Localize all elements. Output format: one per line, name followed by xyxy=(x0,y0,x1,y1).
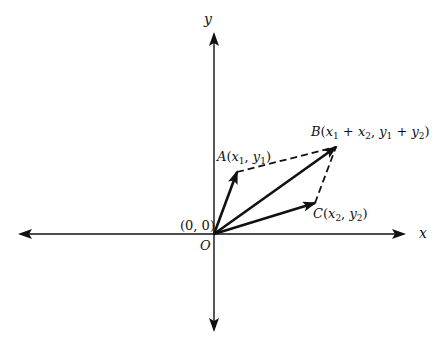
origin-coordinate-label: (0, 0) xyxy=(180,219,215,232)
diagram-canvas xyxy=(0,0,442,343)
origin-label: O xyxy=(200,239,211,252)
x-axis-label: x xyxy=(419,226,427,240)
point-B-label: B(x1 + x2, y1 + y2) xyxy=(311,125,430,141)
vector-addition-diagram: y x (0, 0) O A(x1, y1) B(x1 + x2, y1 + y… xyxy=(0,0,442,343)
point-C-label: C(x2, y2) xyxy=(313,207,368,223)
y-axis-label: y xyxy=(204,12,212,26)
vector-OC xyxy=(214,203,315,234)
point-A-label: A(x1, y1) xyxy=(217,150,271,166)
